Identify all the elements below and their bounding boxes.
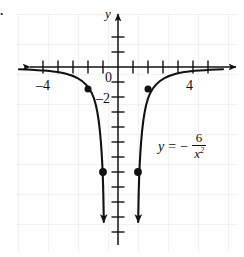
- origin-label: 0: [105, 71, 112, 85]
- equation-minus-sign: −: [180, 139, 188, 155]
- y-axis-label: y: [105, 7, 111, 20]
- graph-figure: .: [0, 0, 244, 257]
- point-pos2-neg1p5: [145, 86, 152, 93]
- x-tick-label-neg4: –4: [36, 79, 50, 93]
- point-pos1-neg6: [134, 168, 142, 176]
- point-neg1-neg6: [99, 168, 107, 176]
- equation-annotation: y = − 6 x2: [158, 132, 206, 161]
- point-neg2-neg1p5: [85, 86, 92, 93]
- fraction-numerator: 6: [194, 131, 205, 145]
- fraction-denominator: x2: [192, 146, 206, 160]
- denominator-exponent: 2: [200, 146, 204, 155]
- equation-lhs: y: [158, 139, 164, 155]
- y-axis: [112, 14, 125, 245]
- y-tick-label-neg2: –2: [96, 92, 110, 106]
- equation-fraction: 6 x2: [192, 131, 206, 160]
- equation-equals-sign: =: [168, 139, 176, 155]
- coordinate-plot: [0, 0, 244, 257]
- x-tick-label-pos4: 4: [186, 79, 193, 93]
- curve-left-branch: [19, 69, 104, 222]
